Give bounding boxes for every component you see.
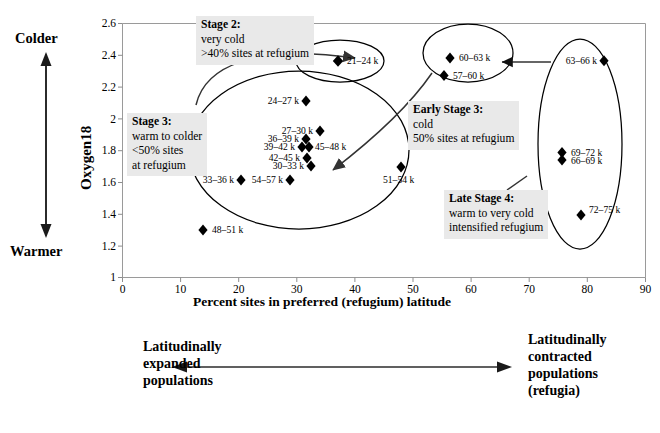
point-label-57-60k: 57–60 k bbox=[453, 70, 484, 81]
group-ellipse-stage-3 bbox=[189, 71, 409, 229]
point-label-21-24k: 21–24 k bbox=[347, 55, 378, 66]
y-tick-1.4: 1.4 bbox=[90, 208, 116, 222]
annotation-stage-3: Stage 3: warm to colder <50% sites at re… bbox=[127, 113, 207, 176]
label-colder: Colder bbox=[15, 30, 58, 47]
point-label-30-33k: 30–33 k bbox=[254, 160, 304, 171]
x-axis-ticks bbox=[123, 278, 646, 283]
point-label-63-66k: 63–66 k bbox=[547, 55, 597, 66]
annotation-early-stage-3-line-2: 50% sites at refugium bbox=[413, 132, 514, 145]
annotation-stage-2: Stage 2: very cold >40% sites at refugiu… bbox=[196, 16, 314, 65]
annotation-stage-2-title: Stage 2: bbox=[201, 18, 241, 31]
temperature-direction-arrow bbox=[41, 52, 52, 238]
annotation-late-stage-4-title: Late Stage 4: bbox=[449, 192, 514, 205]
point-label-45-48k: 45–48 k bbox=[315, 141, 346, 152]
x-tick-60: 60 bbox=[458, 283, 484, 297]
annotation-early-stage-3-line-1: cold bbox=[413, 118, 433, 131]
population-direction-arrow bbox=[172, 362, 512, 373]
x-tick-10: 10 bbox=[168, 283, 194, 297]
marker-60-63k bbox=[445, 53, 454, 64]
y-tick-2.6: 2.6 bbox=[90, 17, 116, 31]
arrow-late-stage4-pointer bbox=[507, 176, 527, 190]
footer-label-contracted: Latitudinally contracted populations (re… bbox=[528, 331, 607, 399]
annotation-stage-3-line-1: warm to colder bbox=[132, 130, 202, 143]
annotation-late-stage-4-line-1: warm to very cold bbox=[449, 207, 534, 220]
annotation-late-stage-4: Late Stage 4: warm to very cold intensif… bbox=[444, 190, 548, 239]
marker-48-51k bbox=[198, 225, 207, 236]
marker-27-30k bbox=[315, 126, 324, 137]
figure-scatter-oxygen18: 2.6 2.4 2.2 2 1.8 1.6 1.4 1.2 1 0 10 20 … bbox=[0, 0, 660, 433]
x-tick-70: 70 bbox=[516, 283, 542, 297]
y-tick-2.2: 2.2 bbox=[90, 81, 116, 95]
marker-66-69k bbox=[557, 155, 566, 166]
marker-72-75k bbox=[576, 210, 585, 221]
annotation-stage-2-line-1: very cold bbox=[201, 33, 244, 46]
point-label-39-42k: 39–42 k bbox=[245, 141, 295, 152]
annotation-stage-3-line-2: <50% sites bbox=[132, 144, 183, 157]
point-label-72-75k: 72–75 k bbox=[589, 204, 620, 215]
label-warmer: Warmer bbox=[10, 243, 62, 260]
x-axis-title: Percent sites in preferred (refugium) la… bbox=[193, 294, 451, 310]
annotation-late-stage-4-line-2: intensified refugium bbox=[449, 221, 543, 234]
point-label-66-69k: 66–69 k bbox=[571, 155, 602, 166]
point-label-60-63k: 60–63 k bbox=[459, 52, 490, 63]
x-tick-80: 80 bbox=[574, 283, 600, 297]
marker-51-54k bbox=[396, 162, 405, 173]
y-tick-2.4: 2.4 bbox=[90, 49, 116, 63]
y-tick-1.2: 1.2 bbox=[90, 240, 116, 254]
annotation-stage-2-line-2: >40% sites at refugium bbox=[201, 47, 309, 60]
footer-label-expanded: Latitudinally expanded populations bbox=[143, 338, 222, 389]
point-label-54-57k: 54–57 k bbox=[233, 174, 283, 185]
y-axis-ticks bbox=[118, 24, 123, 278]
y-tick-2: 2 bbox=[90, 113, 116, 127]
marker-54-57k bbox=[285, 175, 294, 186]
marker-24-27k bbox=[301, 96, 310, 107]
annotation-early-stage-3-title: Early Stage 3: bbox=[413, 103, 483, 116]
point-label-51-54k: 51–54 k bbox=[383, 174, 414, 185]
point-label-48-51k: 48–51 k bbox=[212, 224, 243, 235]
annotation-early-stage-3: Early Stage 3: cold 50% sites at refugiu… bbox=[408, 101, 519, 150]
annotation-stage-3-title: Stage 3: bbox=[132, 115, 172, 128]
x-tick-90: 90 bbox=[633, 283, 659, 297]
annotation-stage-3-line-3: at refugium bbox=[132, 159, 186, 172]
point-label-24-27k: 24–27 k bbox=[249, 95, 299, 106]
y-axis-title: Oxygen18 bbox=[78, 126, 96, 190]
x-tick-0: 0 bbox=[110, 283, 136, 297]
